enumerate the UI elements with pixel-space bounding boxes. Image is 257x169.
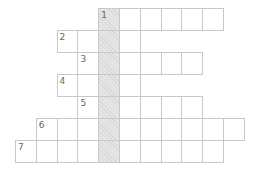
crossword-cell[interactable] <box>161 8 183 31</box>
crossword-cell[interactable] <box>161 140 183 163</box>
crossword-cell[interactable] <box>181 118 203 141</box>
clue-number: 2 <box>60 32 66 42</box>
crossword-cell[interactable] <box>140 52 162 75</box>
crossword-cell[interactable]: 2 <box>57 30 79 53</box>
clue-number: 5 <box>80 98 86 108</box>
crossword-key-cell[interactable] <box>98 74 120 97</box>
clue-number: 4 <box>60 76 66 86</box>
crossword-cell[interactable] <box>181 52 203 75</box>
crossword-cell[interactable]: 3 <box>77 52 99 75</box>
crossword-cell[interactable] <box>77 30 99 53</box>
crossword-cell[interactable] <box>181 140 203 163</box>
crossword-key-cell[interactable] <box>98 96 120 119</box>
crossword-cell[interactable] <box>119 96 141 119</box>
crossword-cell[interactable] <box>202 140 224 163</box>
crossword-cell[interactable] <box>161 96 183 119</box>
crossword-cell[interactable]: 6 <box>36 118 58 141</box>
crossword-cell[interactable] <box>202 8 224 31</box>
crossword-cell[interactable]: 7 <box>15 140 37 163</box>
crossword-cell[interactable] <box>161 118 183 141</box>
crossword-cell[interactable] <box>119 74 141 97</box>
crossword-cell[interactable] <box>36 140 58 163</box>
crossword-cell[interactable] <box>140 140 162 163</box>
clue-number: 7 <box>18 142 24 152</box>
crossword-key-cell[interactable]: 1 <box>98 8 120 31</box>
clue-number: 1 <box>101 10 107 20</box>
crossword-cell[interactable] <box>57 118 79 141</box>
clue-number: 3 <box>80 54 86 64</box>
clue-number: 6 <box>39 120 45 130</box>
crossword-cell[interactable] <box>119 118 141 141</box>
crossword-cell[interactable] <box>119 30 141 53</box>
crossword-cell[interactable] <box>119 8 141 31</box>
crossword-cell[interactable] <box>77 140 99 163</box>
crossword-cell[interactable] <box>57 140 79 163</box>
crossword-cell[interactable] <box>77 118 99 141</box>
crossword-cell[interactable] <box>140 118 162 141</box>
crossword-cell[interactable] <box>223 118 245 141</box>
crossword-cell[interactable] <box>202 118 224 141</box>
crossword-cell[interactable] <box>181 96 203 119</box>
crossword-cell[interactable] <box>119 140 141 163</box>
crossword-key-cell[interactable] <box>98 118 120 141</box>
crossword-cell[interactable] <box>161 52 183 75</box>
crossword-key-cell[interactable] <box>98 30 120 53</box>
crossword-cell[interactable] <box>140 96 162 119</box>
crossword-key-cell[interactable] <box>98 52 120 75</box>
crossword-key-cell[interactable] <box>98 140 120 163</box>
crossword-cell[interactable] <box>181 8 203 31</box>
crossword-grid: 1234567 <box>0 0 257 169</box>
crossword-cell[interactable] <box>140 8 162 31</box>
crossword-cell[interactable] <box>77 74 99 97</box>
crossword-cell[interactable] <box>119 52 141 75</box>
crossword-cell[interactable]: 4 <box>57 74 79 97</box>
crossword-cell[interactable]: 5 <box>77 96 99 119</box>
